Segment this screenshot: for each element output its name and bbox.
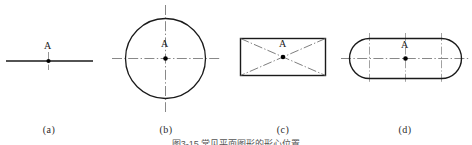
centroid-point-a [46, 59, 50, 63]
figure-caption: 图3-15 常见平面图形的形心位置 [0, 139, 472, 145]
subfigure-label-a: (a) [28, 124, 70, 135]
centroid-point-b [163, 56, 168, 61]
figure-container: A A A A (a) (b) (c) (d) 图3-15 常见平面图形的形心位… [0, 0, 472, 145]
point-label-d: A [401, 39, 408, 50]
centroid-point-d [403, 56, 408, 61]
point-label-a: A [44, 40, 51, 51]
subfigure-label-b: (b) [145, 124, 187, 135]
subfigure-a-line [6, 52, 93, 70]
point-label-b: A [161, 38, 168, 49]
subfigure-label-d: (d) [384, 124, 426, 135]
point-label-c: A [279, 38, 286, 49]
subfigure-b-circle [112, 5, 220, 112]
subfigure-label-c: (c) [262, 124, 304, 135]
centroid-point-c [281, 55, 286, 60]
